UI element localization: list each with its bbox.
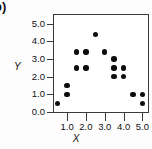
x-axis-label: X <box>0 134 152 144</box>
y-axis-tick <box>47 41 54 42</box>
y-axis-tick <box>47 24 54 25</box>
y-axis-tick <box>47 94 54 95</box>
y-axis-tick-label: 3.0 <box>19 54 45 64</box>
y-axis-tick-label: 1.0 <box>19 89 45 99</box>
x-axis-tick <box>142 113 143 121</box>
x-axis-tick-label: 5.0 <box>130 122 152 132</box>
y-axis-tick-label: 4.0 <box>19 36 45 46</box>
panel-letter: b) <box>0 0 6 14</box>
y-axis-tick-label: 0.0 <box>19 107 45 117</box>
y-axis-tick <box>47 59 54 60</box>
x-axis-tick <box>105 113 106 121</box>
x-axis-tick <box>67 113 68 121</box>
x-axis-tick <box>86 113 87 121</box>
x-axis-tick <box>124 113 125 121</box>
plot-frame <box>53 14 149 113</box>
y-axis-tick-label: 5.0 <box>19 19 45 29</box>
y-axis-tick <box>47 77 54 78</box>
scatter-plot-figure: b) Y X 0.01.02.03.04.05.0 1.02.03.04.05.… <box>0 0 152 149</box>
y-axis-tick <box>47 112 54 113</box>
y-axis-tick-label: 2.0 <box>19 72 45 82</box>
